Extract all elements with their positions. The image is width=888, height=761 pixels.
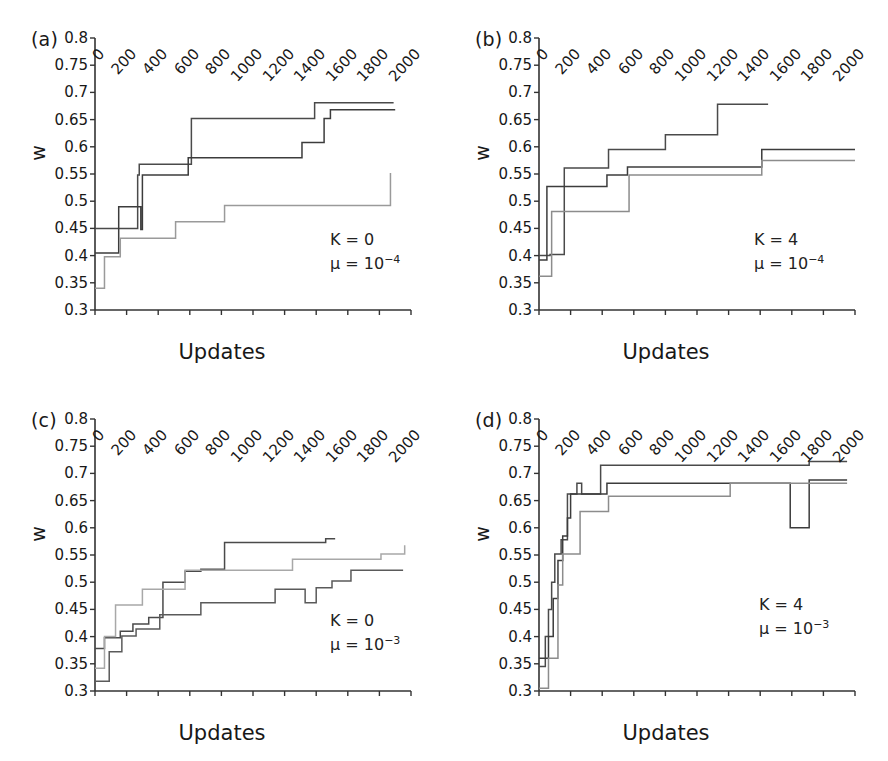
y-tick-label: 0.7	[508, 464, 532, 482]
panel-label-b: (b)	[475, 28, 503, 50]
annotation-a: K = 0 μ = 10−4	[330, 228, 400, 276]
y-tick-label: 0.3	[508, 301, 532, 319]
y-tick-label: 0.65	[499, 492, 532, 510]
annotation-d: K = 4 μ = 10−3	[759, 593, 829, 641]
plot-area-d: 0.30.350.40.450.50.550.60.650.70.750.8 0…	[539, 419, 855, 691]
y-tick-label: 0.35	[499, 274, 532, 292]
y-tick-label: 0.5	[64, 573, 88, 591]
y-tick-label: 0.45	[499, 600, 532, 618]
chart-panel-c: (c) w 0.30.350.40.450.50.550.60.650.70.7…	[0, 381, 444, 761]
y-tick-label: 0.8	[508, 29, 532, 47]
annotation-k-a: K = 0	[330, 228, 400, 252]
y-tick-label: 0.4	[64, 628, 88, 646]
panel-label-c: (c)	[31, 409, 57, 431]
series-line	[539, 483, 847, 688]
y-axis-label-d: w	[471, 526, 493, 542]
annotation-k-c: K = 0	[330, 609, 400, 633]
y-axis-label-c: w	[27, 526, 49, 542]
y-tick-label: 0.65	[55, 492, 88, 510]
y-tick-label: 0.7	[64, 464, 88, 482]
y-tick-label: 0.65	[55, 111, 88, 129]
y-tick-label: 0.7	[508, 83, 532, 101]
annotation-mu-d: μ = 10−3	[759, 617, 829, 641]
chart-panel-b: (b) w 0.30.350.40.450.50.550.60.650.70.7…	[444, 0, 888, 380]
annotation-mu-c: μ = 10−3	[330, 633, 400, 657]
y-tick-label: 0.75	[499, 437, 532, 455]
chart-panel-d: (d) w 0.30.350.40.450.50.550.60.650.70.7…	[444, 381, 888, 761]
y-tick-label: 0.8	[64, 410, 88, 428]
y-tick-label: 0.45	[55, 600, 88, 618]
y-tick-label: 0.75	[55, 437, 88, 455]
y-tick-label: 0.5	[508, 573, 532, 591]
chart-panel-a: (a) w 0.30.350.40.450.50.550.60.650.70.7…	[0, 0, 444, 380]
panel-label-d: (d)	[475, 409, 503, 431]
y-tick-label: 0.45	[55, 219, 88, 237]
x-axis-label-c: Updates	[0, 721, 444, 745]
y-tick-label: 0.3	[64, 682, 88, 700]
x-axis-label-a: Updates	[0, 340, 444, 364]
y-tick-label: 0.6	[508, 138, 532, 156]
y-tick-label: 0.75	[499, 56, 532, 74]
y-tick-label: 0.8	[508, 410, 532, 428]
y-tick-label: 0.55	[55, 165, 88, 183]
panel-label-a: (a)	[31, 28, 58, 50]
y-tick-label: 0.4	[508, 247, 532, 265]
y-tick-label: 0.6	[64, 138, 88, 156]
y-tick-label: 0.65	[499, 111, 532, 129]
y-tick-label: 0.3	[508, 682, 532, 700]
y-tick-label: 0.75	[55, 56, 88, 74]
y-tick-label: 0.4	[508, 628, 532, 646]
y-tick-label: 0.5	[508, 192, 532, 210]
figure-root: (a) w 0.30.350.40.450.50.550.60.650.70.7…	[0, 0, 888, 761]
y-tick-label: 0.4	[64, 247, 88, 265]
series-line	[539, 104, 768, 255]
y-tick-label: 0.3	[64, 301, 88, 319]
y-tick-label: 0.45	[499, 219, 532, 237]
y-tick-label: 0.35	[499, 655, 532, 673]
y-tick-label: 0.6	[508, 519, 532, 537]
series-line	[95, 539, 335, 649]
y-tick-label: 0.8	[64, 29, 88, 47]
x-axis-label-d: Updates	[444, 721, 888, 745]
annotation-c: K = 0 μ = 10−3	[330, 609, 400, 657]
y-tick-label: 0.7	[64, 83, 88, 101]
annotation-k-b: K = 4	[754, 228, 824, 252]
y-axis-label-a: w	[27, 145, 49, 161]
y-tick-label: 0.55	[55, 546, 88, 564]
y-tick-label: 0.55	[499, 165, 532, 183]
annotation-b: K = 4 μ = 10−4	[754, 228, 824, 276]
annotation-k-d: K = 4	[759, 593, 829, 617]
y-tick-label: 0.5	[64, 192, 88, 210]
x-axis-label-b: Updates	[444, 340, 888, 364]
y-tick-label: 0.35	[55, 274, 88, 292]
y-tick-label: 0.6	[64, 519, 88, 537]
y-tick-label: 0.55	[499, 546, 532, 564]
annotation-mu-b: μ = 10−4	[754, 252, 824, 276]
y-tick-label: 0.35	[55, 655, 88, 673]
annotation-mu-a: μ = 10−4	[330, 252, 400, 276]
y-axis-label-b: w	[471, 145, 493, 161]
series-line	[95, 103, 394, 229]
